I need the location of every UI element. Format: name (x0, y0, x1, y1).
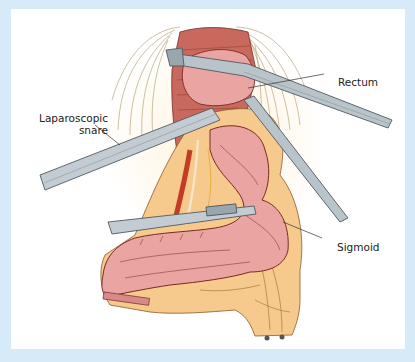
label-rectum: Rectum (338, 76, 378, 88)
label-snare-line1: Laparoscopic (36, 112, 108, 124)
label-snare-line2: snare (36, 124, 108, 136)
illustration-panel: Rectum Laparoscopic snare Sigmoid (11, 9, 405, 349)
label-sigmoid: Sigmoid (337, 241, 379, 253)
surgical-illustration (11, 9, 405, 349)
label-laparoscopic-snare: Laparoscopic snare (36, 112, 108, 136)
